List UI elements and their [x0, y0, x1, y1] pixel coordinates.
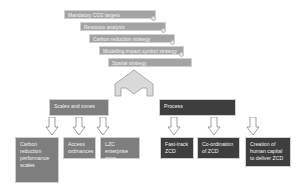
right-child-2: Co-ordination of ZCD [197, 137, 240, 159]
stack-bar-5: Spatial strategy [108, 58, 192, 67]
stack-bar-1: Mandatory CO2 targets [64, 10, 156, 19]
down-arrow-icon [246, 117, 260, 136]
right-child-1: Fast-track ZCD [160, 137, 194, 159]
stack-bar-label: Resource analysis [84, 24, 125, 30]
down-arrow-icon [167, 117, 181, 136]
left-child-label: Access ordinances [68, 141, 91, 155]
stack-bar-3: Carbon reduction strategy [89, 34, 175, 43]
stack-bar-label: Carbon reduction strategy [93, 36, 151, 42]
connector-dot [170, 40, 175, 45]
stack-bar-label: Modelling impact symbol strategy [103, 48, 177, 54]
down-arrow-icon [72, 117, 86, 136]
right-child-3: Creation of human capital to deliver ZCD [245, 137, 291, 167]
left-branch-header: Scales and zones [49, 99, 109, 116]
down-arrow-icon [96, 117, 110, 136]
right-branch-header: Process [159, 99, 236, 116]
stack-bar-2: Resource analysis [80, 22, 166, 31]
right-child-label: Creation of human capital to deliver ZCD [250, 141, 286, 162]
stack-bar-4: Modelling impact symbol strategy [99, 46, 184, 55]
connector-dot [151, 16, 156, 21]
connector-dot [179, 52, 184, 57]
split-arrow-icon [111, 68, 157, 98]
left-child-2: Access ordinances [63, 137, 96, 159]
left-child-1: Carbon reduction performance scales [15, 137, 59, 183]
connector-dot [161, 28, 166, 33]
stack-bar-label: Mandatory CO2 targets [68, 12, 120, 18]
left-child-3: LZC enterprise zone [100, 137, 140, 159]
down-arrow-icon [45, 117, 59, 136]
down-arrow-icon [207, 117, 221, 136]
left-child-label: LZC enterprise zone [105, 141, 135, 162]
right-child-label: Fast-track ZCD [165, 141, 189, 155]
right-branch-title: Process [164, 103, 231, 110]
left-branch-title: Scales and zones [54, 103, 104, 110]
left-child-label: Carbon reduction performance scales [20, 141, 54, 169]
stack-bar-label: Spatial strategy [112, 60, 146, 66]
right-child-label: Co-ordination of ZCD [202, 141, 235, 155]
